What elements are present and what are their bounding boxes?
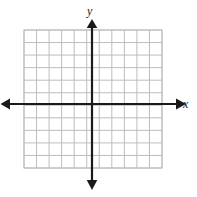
x-axis-left-arrow-icon — [1, 99, 11, 110]
coordinate-plane-svg — [0, 0, 197, 197]
coordinate-plane-figure: y x — [0, 0, 197, 197]
y-axis-label: y — [87, 5, 92, 17]
y-axis-up-arrow-icon — [87, 19, 98, 28]
x-axis — [1, 99, 187, 110]
x-axis-label: x — [183, 98, 188, 110]
y-axis-down-arrow-icon — [87, 180, 98, 190]
